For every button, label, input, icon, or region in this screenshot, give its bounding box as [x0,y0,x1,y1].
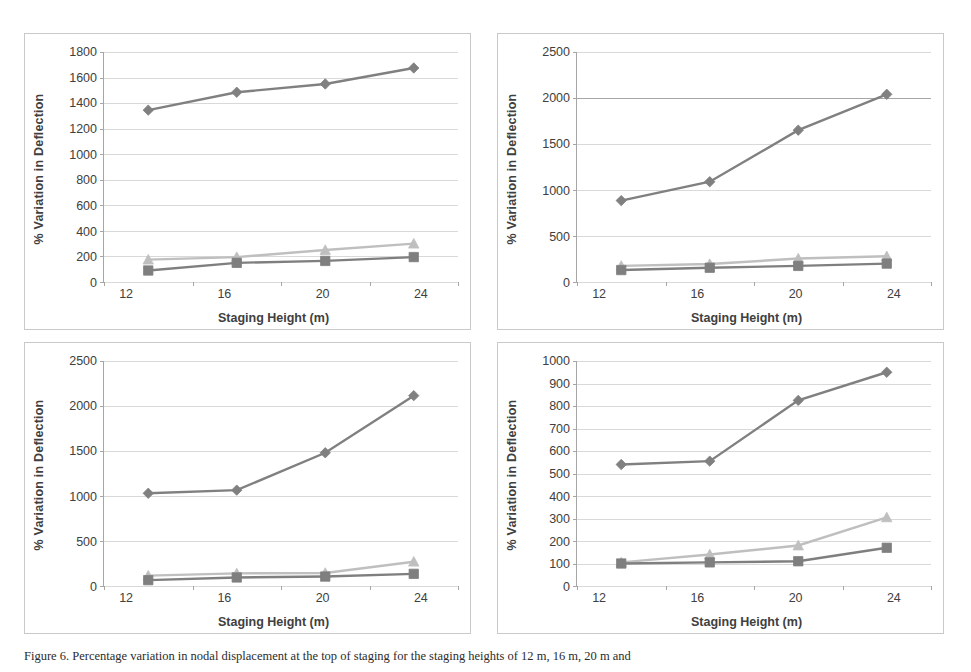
x-tick-mark [754,586,755,590]
series-square [144,569,419,585]
y-tick-label: 1500 [69,444,97,458]
x-tick-label: 12 [119,591,133,605]
y-axis-tick-labels: 020040060080010001200140016001800 [51,52,103,283]
plot-area-wrapper: 05001000150020002500 [51,361,458,587]
y-tick-label: 2000 [69,399,97,413]
x-tick-label: 24 [887,591,901,605]
y-tick-label: 600 [549,444,570,458]
y-tick-label: 1000 [542,354,570,368]
y-axis-tick-labels: 05001000150020002500 [524,52,576,283]
x-axis-title: Staging Height (m) [77,615,470,629]
data-point-square [794,557,803,566]
x-tick-mark [843,282,844,286]
y-tick-label: 600 [76,199,97,213]
y-tick-label: 1200 [69,122,97,136]
x-tick-mark [577,586,578,590]
y-tick-label: 1800 [69,45,97,59]
y-tick-label: 300 [549,512,570,526]
series-layer [577,361,931,586]
data-point-square [232,258,241,267]
chart-inner-bottom-right: % Variation in Deflection010020030040050… [498,343,943,633]
series-triangle [616,512,892,567]
x-tick-label: 20 [789,287,803,301]
x-tick-label: 24 [414,287,428,301]
plot-area [103,52,458,283]
series-line [148,396,414,494]
data-point-square [617,559,626,568]
x-axis-tick-labels: 12162024 [77,287,470,305]
x-tick-mark [458,282,459,286]
x-tick-label: 20 [316,287,330,301]
x-tick-mark [843,586,844,590]
x-tick-mark [193,282,194,286]
data-point-diamond [232,485,242,495]
y-axis-tick-labels: 01002003004005006007008009001000 [524,361,576,587]
data-point-square [882,543,891,552]
series-line [621,372,887,464]
x-tick-mark [931,586,932,590]
x-tick-label: 12 [119,287,133,301]
x-tick-mark [281,282,282,286]
data-point-diamond [143,105,153,115]
x-tick-label: 24 [887,287,901,301]
x-tick-label: 16 [217,591,231,605]
data-point-diamond [320,79,330,89]
data-point-diamond [705,177,715,187]
y-tick-label: 800 [76,173,97,187]
x-tick-label: 20 [316,591,330,605]
x-tick-label: 12 [592,287,606,301]
data-point-square [232,573,241,582]
series-diamond [143,63,419,116]
chart-inner-bottom-left: % Variation in Deflection050010001500200… [25,343,470,633]
plot-area-wrapper: 020040060080010001200140016001800 [51,52,458,283]
x-axis-tick-labels: 12162024 [77,591,470,609]
series-square [144,252,419,275]
figure-caption: Figure 6. Percentage variation in nodal … [24,648,948,664]
y-tick-label: 700 [549,422,570,436]
chart-panel-bottom-right: % Variation in Deflection010020030040050… [497,342,944,634]
data-point-diamond [616,459,626,469]
x-tick-mark [370,586,371,590]
data-point-square [794,261,803,270]
plot-area-wrapper: 05001000150020002500 [524,52,931,283]
y-axis-title-text: % Variation in Deflection [505,400,519,551]
series-diamond [143,390,419,498]
x-tick-mark [104,282,105,286]
y-axis-title: % Variation in Deflection [27,343,51,607]
data-point-square [321,572,330,581]
series-line [621,94,887,200]
y-tick-label: 200 [549,535,570,549]
data-point-triangle [882,512,892,522]
chart-inner-top-left: % Variation in Deflection020040060080010… [25,34,470,329]
y-tick-label: 1000 [542,184,570,198]
x-tick-label: 16 [690,591,704,605]
data-point-diamond [143,488,153,498]
y-tick-label: 400 [76,225,97,239]
series-line [148,244,414,260]
data-point-square [144,575,153,584]
y-axis-tick-labels: 05001000150020002500 [51,361,103,587]
x-tick-mark [754,282,755,286]
data-point-square [617,265,626,274]
y-axis-title: % Variation in Deflection [500,34,524,303]
data-point-diamond [793,125,803,135]
series-diamond [616,367,892,470]
y-tick-label: 500 [76,535,97,549]
x-tick-mark [931,282,932,286]
data-point-square [882,259,891,268]
y-tick-label: 1400 [69,96,97,110]
data-point-square [144,266,153,275]
x-tick-mark [577,282,578,286]
x-tick-mark [666,586,667,590]
data-point-square [409,252,418,261]
x-axis-title: Staging Height (m) [550,615,943,629]
x-tick-label: 16 [690,287,704,301]
data-point-diamond [882,89,892,99]
y-tick-label: 400 [549,490,570,504]
chart-inner-top-right: % Variation in Deflection050010001500200… [498,34,943,329]
data-point-square [705,263,714,272]
y-axis-title: % Variation in Deflection [27,34,51,303]
plot-area [576,52,931,283]
data-point-diamond [409,63,419,73]
y-axis-title: % Variation in Deflection [500,343,524,607]
